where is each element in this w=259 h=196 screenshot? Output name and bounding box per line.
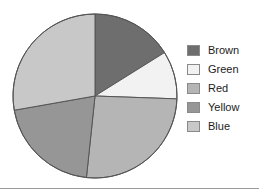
legend-label-red: Red xyxy=(208,83,228,94)
legend-label-brown: Brown xyxy=(208,45,239,56)
legend-label-green: Green xyxy=(208,64,239,75)
legend-item-green[interactable]: Green xyxy=(187,60,259,79)
legend-label-yellow: Yellow xyxy=(208,102,239,113)
legend-label-blue: Blue xyxy=(208,121,230,132)
legend-item-blue[interactable]: Blue xyxy=(187,117,259,136)
footer-divider xyxy=(0,188,259,189)
pie-chart xyxy=(0,0,190,190)
pie-slice-group xyxy=(13,14,177,178)
legend-swatch-blue xyxy=(187,121,200,132)
legend-item-red[interactable]: Red xyxy=(187,79,259,98)
legend-item-yellow[interactable]: Yellow xyxy=(187,98,259,117)
legend-swatch-green xyxy=(187,64,200,75)
legend-swatch-yellow xyxy=(187,102,200,113)
pie-chart-page: Brown Green Red Yellow Blue xyxy=(0,0,259,196)
chart-legend: Brown Green Red Yellow Blue xyxy=(187,41,259,136)
legend-item-brown[interactable]: Brown xyxy=(187,41,259,60)
pie-slice-red[interactable] xyxy=(86,96,177,178)
legend-swatch-brown xyxy=(187,45,200,56)
pie-chart-svg xyxy=(0,0,190,190)
pie-slice-blue[interactable] xyxy=(13,14,95,110)
legend-swatch-red xyxy=(187,83,200,94)
